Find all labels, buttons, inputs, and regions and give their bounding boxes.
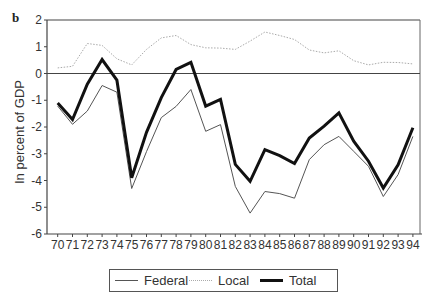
x-tick-label: 74 [110, 238, 124, 252]
x-tick-label: 78 [169, 238, 183, 252]
series-total-line [58, 60, 413, 188]
legend: Federal Local Total [109, 269, 338, 292]
y-axis-label: In percent of GDP [12, 80, 27, 184]
x-tick-label: 92 [377, 238, 391, 252]
x-tick-label: 88 [317, 238, 331, 252]
series-local-line [58, 32, 413, 68]
y-tick-label: 2 [35, 13, 42, 27]
series-lines [58, 32, 413, 213]
x-tick-label: 79 [184, 238, 198, 252]
legend-item-total: Total [260, 270, 316, 291]
legend-item-federal: Federal [115, 270, 188, 291]
x-tick-label: 90 [347, 238, 361, 252]
x-tick-label: 86 [288, 238, 302, 252]
x-tick-label: 93 [391, 238, 405, 252]
x-tick-label: 76 [140, 238, 154, 252]
legend-label-local: Local [218, 273, 249, 288]
y-tick-label: 1 [35, 40, 42, 54]
x-tick-label: 85 [273, 238, 287, 252]
x-tick-label: 89 [332, 238, 346, 252]
y-tick-label: -5 [31, 200, 42, 214]
x-tick-label: 75 [125, 238, 139, 252]
federal-line-swatch [115, 280, 138, 281]
y-tick-label: -4 [31, 174, 42, 188]
local-line-swatch [189, 280, 212, 281]
x-tick-label: 81 [214, 238, 228, 252]
total-line-swatch [260, 279, 283, 282]
y-tick-label: -1 [31, 93, 42, 107]
x-tick-label: 73 [95, 238, 109, 252]
y-tick-label: -6 [31, 227, 42, 241]
x-tick-label: 70 [51, 238, 65, 252]
x-tick-label: 87 [303, 238, 317, 252]
y-tick-label: -3 [31, 147, 42, 161]
y-tick-label: -2 [31, 120, 42, 134]
x-tick-label: 84 [258, 238, 272, 252]
legend-label-total: Total [289, 273, 316, 288]
y-tick-label: 0 [35, 67, 42, 81]
x-tick-label: 72 [81, 238, 95, 252]
legend-item-local: Local [189, 270, 249, 291]
chart-canvas: 210-1-2-3-4-5-67071727374757677787980818… [0, 0, 434, 307]
x-tick-label: 71 [66, 238, 80, 252]
legend-label-federal: Federal [144, 273, 188, 288]
x-tick-label: 82 [229, 238, 243, 252]
panel-label: b [12, 10, 19, 26]
x-tick-label: 83 [243, 238, 257, 252]
x-tick-label: 80 [199, 238, 213, 252]
x-tick-label: 94 [406, 238, 420, 252]
x-tick-label: 77 [155, 238, 169, 252]
x-tick-label: 91 [362, 238, 376, 252]
